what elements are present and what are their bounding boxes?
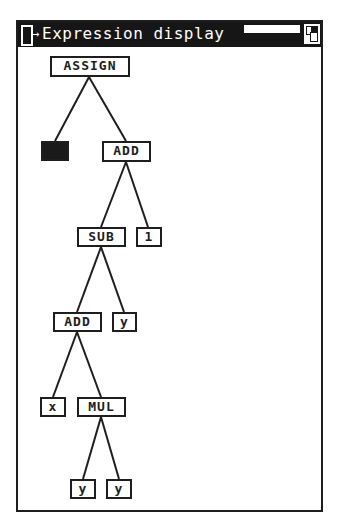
tree-edge (101, 247, 124, 312)
tree-node-assign[interactable]: ASSIGN (50, 56, 130, 77)
tree-node-add[interactable]: ADD (102, 141, 151, 162)
tree-node-mul[interactable]: MUL (77, 397, 126, 417)
tree-edge (77, 247, 101, 312)
tree-edges (0, 0, 339, 525)
tree-edge (126, 162, 148, 227)
tree-edge (101, 417, 119, 479)
tree-edge (55, 77, 89, 141)
tree-node-add[interactable]: ADD (53, 312, 102, 332)
tree-node-y[interactable]: y (106, 479, 132, 499)
tree-edge (53, 332, 77, 397)
tree-node-selected[interactable] (41, 141, 69, 161)
tree-node-y[interactable]: y (112, 312, 137, 332)
tree-node-y[interactable]: y (70, 479, 96, 499)
tree-node-x[interactable]: x (40, 397, 66, 417)
tree-node-1[interactable]: 1 (136, 227, 162, 247)
expression-tree: ASSIGNADDSUB1ADDyxMULyy (0, 0, 339, 525)
tree-edge (77, 332, 101, 397)
tree-node-sub[interactable]: SUB (77, 227, 126, 247)
tree-edge (83, 417, 101, 479)
tree-edge (89, 77, 126, 141)
tree-edge (101, 162, 126, 227)
